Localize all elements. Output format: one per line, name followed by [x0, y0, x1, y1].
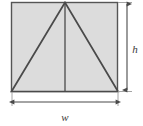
height-dimension-label: h — [132, 43, 138, 55]
geometry-diagram-canvas: h w — [0, 0, 143, 126]
geometry-figure: h w — [0, 0, 143, 126]
width-dimension-label: w — [61, 111, 69, 123]
